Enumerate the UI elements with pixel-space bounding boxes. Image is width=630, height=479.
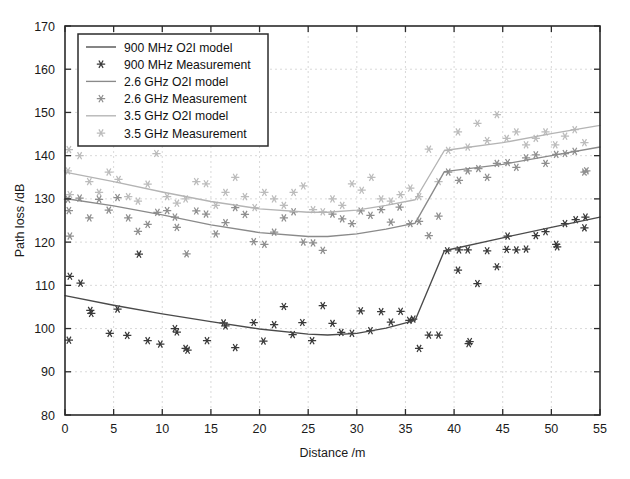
x-tick-label: 20	[253, 422, 267, 436]
x-tick-label: 10	[155, 422, 169, 436]
y-tick-label: 170	[34, 20, 55, 34]
x-tick-label: 0	[62, 422, 69, 436]
path-loss-chart: 0510152025303540455055 80901001101201301…	[0, 0, 630, 479]
legend-label: 3.5 GHz Measurement	[124, 127, 247, 141]
y-tick-label: 160	[34, 63, 55, 77]
x-tick-label: 45	[496, 422, 510, 436]
y-tick-label: 130	[34, 192, 55, 206]
x-tick-label: 40	[447, 422, 461, 436]
y-tick-label: 150	[34, 106, 55, 120]
x-tick-label: 15	[204, 422, 218, 436]
legend-label: 2.6 GHz Measurement	[124, 92, 247, 106]
y-tick-label: 120	[34, 236, 55, 250]
y-tick-label: 80	[41, 409, 55, 423]
x-tick-label: 30	[350, 422, 364, 436]
x-tick-label: 35	[399, 422, 413, 436]
x-tick-label: 50	[544, 422, 558, 436]
x-tick-label: 5	[110, 422, 117, 436]
y-tick-label: 100	[34, 322, 55, 336]
y-tick-label: 140	[34, 149, 55, 163]
legend-label: 900 MHz O2I model	[124, 41, 232, 55]
x-tick-label: 25	[301, 422, 315, 436]
y-tick-label: 110	[35, 279, 55, 293]
x-axis-label: Distance /m	[300, 446, 366, 460]
x-tick-label: 55	[593, 422, 607, 436]
y-tick-label: 90	[41, 365, 55, 379]
legend-label: 3.5 GHz O2I model	[124, 109, 228, 123]
y-axis-label: Path loss /dB	[13, 184, 27, 258]
legend: 900 MHz O2I model900 MHz Measurement2.6 …	[78, 34, 268, 146]
legend-label: 2.6 GHz O2I model	[124, 75, 228, 89]
legend-label: 900 MHz Measurement	[124, 58, 251, 72]
